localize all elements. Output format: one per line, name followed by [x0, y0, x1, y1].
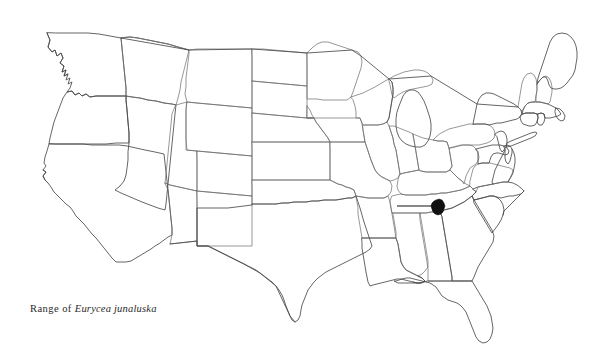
state-west-virginia — [449, 145, 479, 184]
state-oregon — [49, 91, 129, 144]
state-new-hampshire — [536, 76, 552, 104]
state-missouri — [330, 142, 392, 198]
state-nebraska — [252, 113, 330, 142]
state-florida — [394, 278, 493, 343]
state-north-dakota — [252, 49, 307, 86]
state-montana — [121, 37, 252, 108]
state-south-dakota — [252, 81, 314, 118]
caption-prefix: Range of — [30, 303, 72, 314]
state-nevada — [115, 96, 176, 210]
state-connecticut — [520, 113, 538, 126]
chesapeake-bay — [492, 150, 505, 184]
state-south-carolina — [474, 196, 504, 233]
state-illinois — [363, 122, 400, 181]
caption-species-name: Eurycea junaluska — [75, 303, 157, 314]
state-colorado — [197, 151, 252, 196]
state-kansas — [252, 142, 330, 180]
state-new-jersey — [495, 131, 507, 152]
state-georgia — [440, 196, 494, 281]
range-map-figure: Range ofEurycea junaluska — [0, 0, 607, 361]
canada-border-north — [121, 38, 518, 107]
state-arizona — [165, 183, 197, 244]
state-ohio — [413, 134, 452, 172]
state-iowa — [307, 106, 365, 142]
state-north-carolina — [472, 182, 524, 200]
state-vermont — [518, 73, 537, 114]
state-new-york — [473, 93, 522, 125]
outer-banks — [503, 191, 524, 215]
state-wisconsin — [351, 79, 393, 125]
state-michigan-upper — [389, 70, 433, 98]
state-mississippi — [392, 213, 428, 276]
mexico-border-south — [170, 241, 295, 322]
long-island — [507, 132, 537, 147]
puget-sound — [47, 33, 68, 76]
figure-caption: Range ofEurycea junaluska — [30, 303, 157, 315]
state-kentucky — [397, 170, 470, 195]
state-oklahoma — [252, 180, 356, 204]
state-indiana — [389, 126, 419, 174]
state-maine — [537, 33, 577, 89]
state-new-mexico — [197, 191, 252, 246]
state-california — [43, 144, 172, 262]
state-wyoming — [186, 102, 252, 156]
state-pennsylvania — [433, 124, 495, 148]
san-francisco-bay — [43, 170, 48, 183]
state-utah — [165, 102, 197, 191]
state-washington — [47, 33, 126, 97]
state-texas — [197, 196, 372, 322]
